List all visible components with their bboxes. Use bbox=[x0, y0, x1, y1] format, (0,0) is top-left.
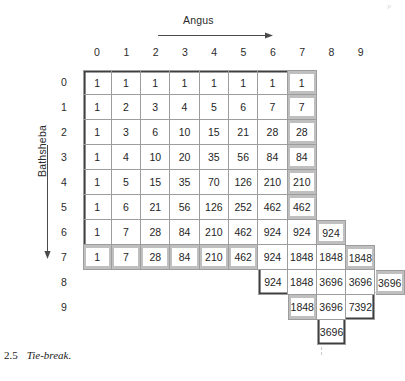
grid-cell-r7-c2[interactable]: 28 bbox=[141, 245, 170, 270]
grid-cell-r1-c4[interactable]: 5 bbox=[200, 95, 229, 120]
grid-cell-value: 252 bbox=[234, 201, 252, 213]
grid-cell-r0-c2[interactable]: 1 bbox=[141, 70, 170, 95]
grid-cell-value: 3696 bbox=[319, 301, 342, 313]
grid-cell-r8-c8[interactable]: 3696 bbox=[317, 270, 346, 295]
grid-cell-value: 7 bbox=[114, 248, 138, 266]
grid-cell-r2-c5[interactable]: 21 bbox=[229, 120, 258, 145]
grid-cell-value: 1 bbox=[94, 126, 100, 138]
grid-cell-r7-c7[interactable]: 1848 bbox=[288, 245, 317, 270]
grid-cell-r1-c5[interactable]: 6 bbox=[229, 95, 258, 120]
grid-cell-r7-c6[interactable]: 924 bbox=[258, 245, 287, 270]
grid-cell-r4-c0[interactable]: 1 bbox=[83, 170, 112, 195]
grid-cell-r4-c4[interactable]: 70 bbox=[200, 170, 229, 195]
grid-cell-r1-c0[interactable]: 1 bbox=[83, 95, 112, 120]
grid-cell-r5-c0[interactable]: 1 bbox=[83, 195, 112, 220]
grid-cell-r8-c7[interactable]: 1848 bbox=[288, 270, 317, 295]
column-header-2: 2 bbox=[141, 46, 170, 58]
grid-cell-r10-c8[interactable]: 3696 bbox=[317, 320, 346, 345]
grid-cell-r0-c6[interactable]: 1 bbox=[258, 70, 287, 95]
grid-cell-r4-c6[interactable]: 210 bbox=[258, 170, 287, 195]
grid-cell-highlight: 84 bbox=[288, 145, 316, 169]
grid-cell-r3-c0[interactable]: 1 bbox=[83, 145, 112, 170]
grid-cell-r1-c3[interactable]: 4 bbox=[170, 95, 199, 120]
grid-cell-r5-c4[interactable]: 126 bbox=[200, 195, 229, 220]
column-header-8: 8 bbox=[317, 46, 346, 58]
grid-cell-r8-c6[interactable]: 924 bbox=[258, 270, 287, 295]
grid-cell-r9-c8[interactable]: 3696 bbox=[317, 295, 346, 320]
grid-cell-r0-c1[interactable]: 1 bbox=[112, 70, 141, 95]
grid-cell-r7-c8[interactable]: 1848 bbox=[317, 245, 346, 270]
grid-cell-value: 56 bbox=[237, 151, 249, 163]
grid-cell-r7-c4[interactable]: 210 bbox=[200, 245, 229, 270]
grid-cell-r3-c2[interactable]: 10 bbox=[141, 145, 170, 170]
grid-cell-value: 10 bbox=[179, 126, 191, 138]
row-header-5: 5 bbox=[56, 201, 72, 213]
grid-cell-r0-c3[interactable]: 1 bbox=[170, 70, 199, 95]
grid-cell-r7-c3[interactable]: 84 bbox=[170, 245, 199, 270]
grid-cell-r3-c4[interactable]: 35 bbox=[200, 145, 229, 170]
grid-cell-r2-c0[interactable]: 1 bbox=[83, 120, 112, 145]
grid-cell-r6-c8[interactable]: 924 bbox=[317, 220, 346, 245]
grid-cell-value: 462 bbox=[234, 226, 252, 238]
grid-cell-r6-c2[interactable]: 28 bbox=[141, 220, 170, 245]
grid-cell-r0-c4[interactable]: 1 bbox=[200, 70, 229, 95]
grid-cell-r8-c9[interactable]: 3696 bbox=[346, 270, 375, 295]
grid-cell-r5-c1[interactable]: 6 bbox=[112, 195, 141, 220]
grid-cell-r6-c3[interactable]: 84 bbox=[170, 220, 199, 245]
grid-cell-r4-c7[interactable]: 210 bbox=[288, 170, 317, 195]
grid-cell-value: 1848 bbox=[319, 251, 342, 263]
grid-cell-r7-c5[interactable]: 462 bbox=[229, 245, 258, 270]
grid-cell-value: 1 bbox=[94, 226, 100, 238]
row-header-4: 4 bbox=[56, 176, 72, 188]
page-corner-mark: p bbox=[388, 2, 392, 10]
grid-cell-r4-c3[interactable]: 35 bbox=[170, 170, 199, 195]
grid-cell-r6-c1[interactable]: 7 bbox=[112, 220, 141, 245]
grid-cell-r4-c2[interactable]: 15 bbox=[141, 170, 170, 195]
grid-cell-r2-c4[interactable]: 15 bbox=[200, 120, 229, 145]
grid-cell-r1-c6[interactable]: 7 bbox=[258, 95, 287, 120]
grid-cell-r6-c5[interactable]: 462 bbox=[229, 220, 258, 245]
column-header-4: 4 bbox=[200, 46, 229, 58]
grid-cell-r5-c7[interactable]: 462 bbox=[288, 195, 317, 220]
grid-cell-r0-c5[interactable]: 1 bbox=[229, 70, 258, 95]
grid-cell-r5-c5[interactable]: 252 bbox=[229, 195, 258, 220]
grid-cell-r4-c1[interactable]: 5 bbox=[112, 170, 141, 195]
grid-cell-r6-c0[interactable]: 1 bbox=[83, 220, 112, 245]
row-header-8: 8 bbox=[56, 276, 72, 288]
grid-cell-value: 1 bbox=[94, 176, 100, 188]
grid-cell-r3-c5[interactable]: 56 bbox=[229, 145, 258, 170]
grid-cell-r1-c1[interactable]: 2 bbox=[112, 95, 141, 120]
grid-cell-r7-c9[interactable]: 1848 bbox=[346, 245, 375, 270]
grid-cell-r2-c3[interactable]: 10 bbox=[170, 120, 199, 145]
grid-cell-r6-c6[interactable]: 924 bbox=[258, 220, 287, 245]
grid-cell-r0-c7[interactable]: 1 bbox=[288, 70, 317, 95]
grid-cell-r9-c7[interactable]: 1848 bbox=[288, 295, 317, 320]
grid-cell-r0-c0[interactable]: 1 bbox=[83, 70, 112, 95]
row-header-2: 2 bbox=[56, 126, 72, 138]
grid-cell-r2-c6[interactable]: 28 bbox=[258, 120, 287, 145]
grid-cell-r2-c7[interactable]: 28 bbox=[288, 120, 317, 145]
grid-cell-r7-c0[interactable]: 1 bbox=[83, 245, 112, 270]
grid-cell-value: 21 bbox=[237, 126, 249, 138]
grid-cell-value: 6 bbox=[123, 201, 129, 213]
grid-cell-r5-c6[interactable]: 462 bbox=[258, 195, 287, 220]
grid-cell-r3-c6[interactable]: 84 bbox=[258, 145, 287, 170]
grid-cell-r5-c3[interactable]: 56 bbox=[170, 195, 199, 220]
grid-cell-r6-c4[interactable]: 210 bbox=[200, 220, 229, 245]
grid-cell-r2-c2[interactable]: 6 bbox=[141, 120, 170, 145]
grid-cell-r1-c2[interactable]: 3 bbox=[141, 95, 170, 120]
grid-cell-r3-c7[interactable]: 84 bbox=[288, 145, 317, 170]
grid-cell-r6-c7[interactable]: 924 bbox=[288, 220, 317, 245]
grid-cell-r7-c1[interactable]: 7 bbox=[112, 245, 141, 270]
grid-cell-r1-c7[interactable]: 7 bbox=[288, 95, 317, 120]
grid-cell-r3-c3[interactable]: 20 bbox=[170, 145, 199, 170]
grid-cell-r8-c10[interactable]: 3696 bbox=[376, 270, 405, 295]
figure-caption: 2.5Tie-break. bbox=[4, 349, 71, 361]
grid-cell-r3-c1[interactable]: 4 bbox=[112, 145, 141, 170]
grid-cell-r5-c2[interactable]: 21 bbox=[141, 195, 170, 220]
grid-cell-r9-c9[interactable]: 7392 bbox=[346, 295, 375, 320]
grid-cell-r4-c5[interactable]: 126 bbox=[229, 170, 258, 195]
grid-cell-highlight: 1 bbox=[84, 245, 111, 269]
grid-cell-r2-c1[interactable]: 3 bbox=[112, 120, 141, 145]
grid-cell-value: 210 bbox=[205, 226, 223, 238]
